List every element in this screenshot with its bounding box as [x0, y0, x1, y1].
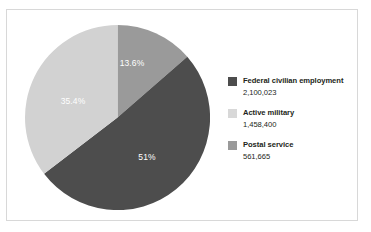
legend-item-postal-service[interactable]: Postal service 561,665 [228, 140, 362, 164]
legend-text-group: Federal civilian employment 2,100,023 [243, 76, 362, 98]
legend-label: Federal civilian employment [243, 76, 362, 86]
legend-item-active-military[interactable]: Active military 1,458,400 [228, 108, 362, 132]
legend-swatch-federal-civilian-employment [228, 77, 237, 86]
legend-swatch-active-military [228, 109, 237, 118]
chart-area: 13.6% 51% 35.4% Federal civilian employm… [0, 0, 371, 232]
legend-text-group: Postal service 561,665 [243, 140, 362, 162]
legend-label: Postal service [243, 140, 362, 150]
pie-svg: 13.6% 51% 35.4% [25, 25, 210, 210]
pie-label-postal-service: 13.6% [120, 58, 145, 68]
legend-text-group: Active military 1,458,400 [243, 108, 362, 130]
legend-swatch-postal-service [228, 141, 237, 150]
pie-label-federal-civilian-employment: 51% [138, 152, 156, 162]
legend-value: 1,458,400 [243, 119, 362, 130]
pie-label-active-military: 35.4% [61, 96, 86, 106]
legend-item-federal-civilian-employment[interactable]: Federal civilian employment 2,100,023 [228, 76, 362, 100]
pie-chart: 13.6% 51% 35.4% [25, 25, 210, 210]
legend-value: 2,100,023 [243, 87, 362, 98]
pie-slices [25, 25, 210, 210]
legend-label: Active military [243, 108, 362, 118]
pie-chart-figure: 13.6% 51% 35.4% Federal civilian employm… [0, 0, 371, 232]
chart-legend: Federal civilian employment 2,100,023 Ac… [228, 76, 362, 172]
legend-value: 561,665 [243, 151, 362, 162]
